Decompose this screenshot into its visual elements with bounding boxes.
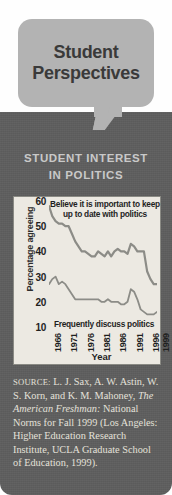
chart-annotation-bottom: Frequently discuss politics <box>48 319 160 329</box>
chart-x-tick: 1976 <box>86 333 96 352</box>
source-note: SOURCE: L. J. Sax, A. W. Astin, W. S. Ko… <box>13 375 161 470</box>
chart-x-tick: 1971 <box>69 333 79 352</box>
chart-series-line <box>49 277 157 315</box>
student-perspectives-sidebar: Student Perspectives STUDENT INTEREST IN… <box>0 0 172 495</box>
chart-annotation-top-line1: Believe it is important to keep <box>50 199 160 209</box>
chart-x-tick: 1996 <box>151 333 161 352</box>
chart-y-tick: 30 <box>35 271 46 282</box>
chart-panel: Percentage agreeing 605040302010 Believe… <box>13 196 161 365</box>
page-title-line1: Student <box>22 42 150 63</box>
source-label: SOURCE: <box>13 377 51 387</box>
chart-y-tick: 40 <box>35 246 46 257</box>
chart-x-tick: 1991 <box>135 333 145 352</box>
chart-inner: Percentage agreeing 605040302010 Believe… <box>14 197 160 364</box>
chart-plot-area <box>49 201 157 327</box>
section-heading-line1: STUDENT INTEREST <box>8 150 164 167</box>
chart-y-tick: 10 <box>35 322 46 333</box>
chart-y-tick-labels: 605040302010 <box>30 197 46 329</box>
page-title: Student Perspectives <box>18 42 154 84</box>
chart-annotation-top: Believe it is important to keep up to da… <box>50 199 160 220</box>
chart-x-axis-title: Year <box>44 351 159 362</box>
chart-y-tick: 50 <box>35 221 46 232</box>
title-speech-bubble: Student Perspectives <box>18 19 154 107</box>
chart-x-tick-labels: 19661971197619811986199119961999 <box>49 331 157 353</box>
section-heading-line2: IN POLITICS <box>8 167 164 184</box>
chart-lines-svg <box>49 201 157 327</box>
section-heading: STUDENT INTEREST IN POLITICS <box>8 150 164 183</box>
chart-x-tick: 1981 <box>102 333 112 352</box>
chart-x-tick: 1966 <box>53 333 63 352</box>
chart-y-tick: 60 <box>35 196 46 207</box>
chart-x-tick: 1986 <box>118 333 128 352</box>
chart-annotation-top-line2: up to date with politics <box>50 209 160 219</box>
chart-y-tick: 20 <box>35 296 46 307</box>
page-title-line2: Perspectives <box>22 63 150 84</box>
chart-x-tick: 1999 <box>161 333 171 352</box>
